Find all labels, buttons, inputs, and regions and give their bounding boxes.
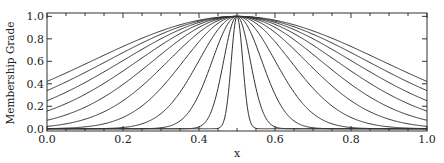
x-tick-label: 1.0	[418, 133, 436, 146]
y-tick-label: 0.8	[27, 33, 45, 46]
membership-curve	[47, 16, 427, 90]
y-tick-label: 0.6	[27, 55, 45, 68]
x-axis-label: x	[234, 147, 241, 160]
curves-group	[47, 16, 427, 128]
x-tick-label: 0.8	[342, 133, 360, 146]
membership-curve	[47, 16, 427, 120]
y-tick-label: 0.2	[27, 100, 45, 113]
y-axis-ticks: 0.00.20.40.60.81.0	[27, 10, 428, 135]
x-tick-label: 0.4	[190, 133, 208, 146]
chart-svg: 0.00.20.40.60.81.0 0.00.20.40.60.81.0 x …	[0, 0, 444, 163]
x-axis-ticks: 0.00.20.40.60.81.0	[38, 13, 436, 146]
y-axis-label: Membership Grade	[4, 21, 16, 124]
y-tick-label: 0.4	[27, 78, 45, 91]
y-tick-label: 0.0	[27, 123, 45, 136]
x-tick-label: 0.2	[114, 133, 132, 146]
y-tick-label: 1.0	[27, 10, 45, 23]
membership-chart: 0.00.20.40.60.81.0 0.00.20.40.60.81.0 x …	[0, 0, 444, 163]
membership-curve	[47, 16, 427, 100]
x-tick-label: 0.6	[266, 133, 284, 146]
